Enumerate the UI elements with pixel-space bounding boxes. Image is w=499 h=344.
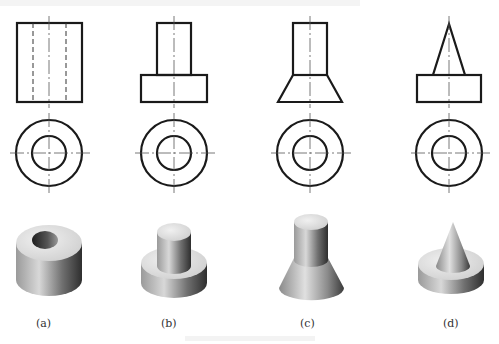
panel-b-3d-render	[141, 223, 207, 298]
panel-label-b: (b)	[161, 317, 177, 330]
figure-caption-faint	[185, 336, 315, 341]
panel-a-front-view	[17, 16, 82, 108]
panel-a-top-view	[10, 113, 91, 193]
panel-d-front-view	[417, 16, 481, 108]
panel-b-front-view	[141, 16, 207, 108]
panel-d-3d-render	[418, 222, 484, 294]
panel-d-top-view	[411, 113, 490, 193]
drawing-svg	[0, 0, 499, 344]
panel-a-3d-render	[16, 225, 82, 296]
panel-label-d: (d)	[443, 317, 459, 330]
figure-canvas: (a) (b) (c) (d)	[0, 0, 499, 344]
panel-c-3d-render	[279, 214, 344, 300]
panel-label-a: (a)	[36, 317, 51, 330]
panel-c-top-view	[271, 113, 352, 193]
panel-c-front-view	[278, 16, 342, 108]
panel-label-c: (c)	[300, 317, 315, 330]
panel-b-top-view	[135, 113, 216, 193]
